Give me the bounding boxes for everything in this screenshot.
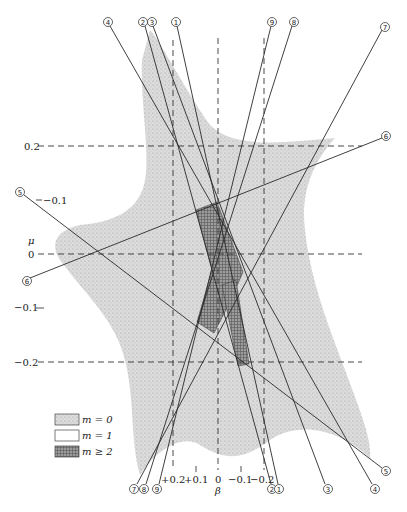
beta-tick-neg0.2: −0.2	[250, 474, 274, 485]
label-1-bottom: 1	[275, 485, 284, 494]
svg-text:4: 4	[106, 19, 111, 27]
legend-label-m0: m = 0	[82, 414, 113, 425]
mu-tick-0.1: −0.1	[43, 195, 67, 206]
svg-text:6: 6	[384, 133, 389, 141]
svg-text:4: 4	[373, 486, 378, 494]
label-8-top: 8	[290, 18, 299, 27]
label-6-left: 6	[23, 277, 32, 286]
mu-tick-0.2: 0.2	[24, 141, 40, 152]
svg-text:1: 1	[174, 19, 178, 27]
svg-text:9: 9	[270, 19, 274, 27]
label-6-right: 6	[382, 132, 391, 141]
label-4-top: 4	[104, 18, 113, 27]
stability-diagram: 4 2 3 1 9 8 7 6 5 6 5 4 3 2 1 7 8 9 0.2 …	[0, 0, 407, 512]
svg-text:9: 9	[155, 486, 159, 494]
label-9-bottom: 9	[153, 485, 162, 494]
beta-tick-plus0.2: +0.2	[161, 474, 185, 485]
label-8-bottom: 8	[140, 485, 149, 494]
legend-label-m2: m ≥ 2	[82, 446, 113, 457]
legend: m = 0 m = 1 m ≥ 2	[55, 414, 113, 457]
label-9-top: 9	[268, 18, 277, 27]
label-2-top: 2	[139, 18, 148, 27]
legend-swatch-m1	[55, 430, 79, 441]
label-7-top: 7	[381, 23, 390, 32]
beta-tick-0: 0	[215, 474, 221, 485]
svg-text:8: 8	[292, 19, 296, 27]
svg-text:7: 7	[132, 486, 136, 494]
mu-tick-neg0.2: −0.2	[14, 357, 38, 368]
label-3-bottom: 3	[324, 485, 333, 494]
svg-text:8: 8	[142, 486, 146, 494]
label-7-bottom: 7	[130, 485, 139, 494]
svg-text:5: 5	[18, 189, 22, 197]
svg-text:3: 3	[326, 486, 330, 494]
svg-text:3: 3	[150, 19, 154, 27]
svg-text:7: 7	[383, 24, 387, 32]
beta-symbol: β	[214, 485, 221, 496]
label-1-top: 1	[172, 18, 181, 27]
svg-text:5: 5	[384, 468, 388, 476]
svg-text:1: 1	[277, 486, 281, 494]
label-5-right: 5	[382, 467, 391, 476]
svg-text:6: 6	[25, 278, 30, 286]
mu-tick-neg0.1: −0.1	[14, 302, 38, 313]
mu-symbol: μ	[28, 235, 35, 246]
svg-text:2: 2	[141, 19, 145, 27]
legend-swatch-m0	[55, 414, 79, 425]
label-4-bottom: 4	[371, 485, 380, 494]
beta-axis-labels: +0.2 +0.1 0 −0.1 −0.2 β	[161, 466, 274, 496]
svg-text:2: 2	[270, 486, 274, 494]
label-5-left: 5	[16, 188, 25, 197]
label-3-top: 3	[148, 18, 157, 27]
beta-tick-plus0.1: +0.1	[184, 474, 208, 485]
legend-label-m1: m = 1	[82, 430, 113, 441]
mu-tick-0: 0	[28, 249, 34, 260]
beta-tick-neg0.1: −0.1	[228, 474, 252, 485]
legend-swatch-m2	[55, 446, 79, 457]
